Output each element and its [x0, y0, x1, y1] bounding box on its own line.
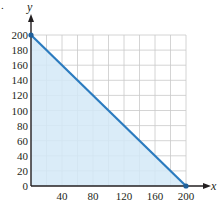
y-tick-label: 120 — [12, 89, 29, 101]
x-tick-label: 80 — [88, 190, 100, 202]
y-tick-label: 160 — [12, 59, 29, 71]
x-tick-label: 40 — [57, 190, 69, 202]
y-tick-label: 200 — [12, 29, 29, 41]
y-tick-label: 40 — [17, 150, 29, 162]
x-axis-label: x — [210, 179, 217, 193]
y-tick-label: 140 — [12, 74, 29, 86]
y-axis-arrow-icon — [28, 14, 34, 22]
y-axis-label: y — [26, 0, 33, 14]
chart: 0204060801001201401601802004080120160200… — [0, 0, 218, 202]
y-tick-label: 180 — [12, 44, 29, 56]
y-tick-label: 100 — [12, 105, 29, 117]
y-tick-label: 20 — [17, 165, 29, 177]
y-tick-label: 80 — [17, 120, 29, 132]
x-tick-label: 120 — [116, 190, 133, 202]
corner-mark: . — [1, 0, 4, 11]
endpoint-marker — [183, 183, 188, 188]
y-tick-label: 60 — [17, 135, 29, 147]
x-tick-label: 160 — [147, 190, 164, 202]
x-axis-arrow-icon — [203, 183, 211, 189]
x-tick-label: 200 — [178, 190, 195, 202]
y-tick-label: 0 — [23, 180, 29, 192]
endpoint-marker — [28, 32, 33, 37]
